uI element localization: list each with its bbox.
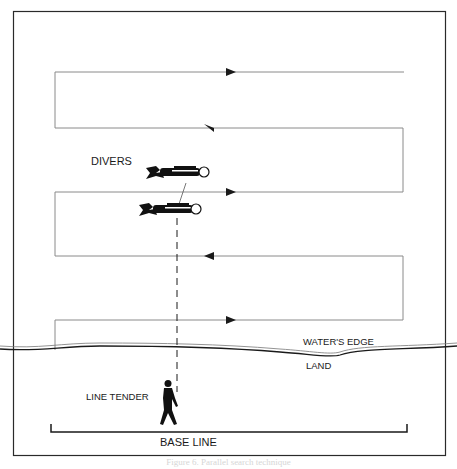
diver-icon	[139, 203, 201, 216]
arrow-right-icon	[226, 68, 236, 76]
arrow-right-icon	[226, 188, 236, 196]
search-pattern-diagram: DIVERS WATER'S EDGE LAND LINE TENDER BAS…	[0, 0, 457, 469]
diver-icon	[146, 166, 209, 179]
figure-frame	[14, 12, 446, 456]
diagram-canvas	[0, 0, 457, 469]
base-line-label: BASE LINE	[160, 437, 217, 448]
line-tender-label: LINE TENDER	[86, 392, 149, 402]
base-line	[51, 424, 407, 432]
person-walking-icon	[160, 380, 178, 425]
waters-edge-line-secondary	[0, 343, 457, 353]
search-path	[55, 72, 404, 350]
figure-caption: Figure 6. Parallel search technique	[0, 457, 457, 467]
arrow-left-icon	[204, 252, 214, 260]
waters-edge-line	[0, 346, 457, 356]
arrow-right-icon	[226, 316, 236, 324]
divers-label: DIVERS	[91, 156, 132, 167]
land-label: LAND	[306, 361, 331, 371]
waters-edge-label: WATER'S EDGE	[303, 337, 374, 347]
